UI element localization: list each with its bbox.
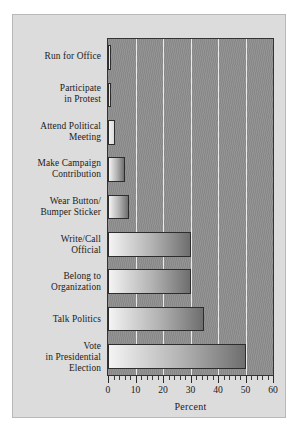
x-axis-minor-tick <box>114 376 115 380</box>
y-axis-label-cell: Talk Politics <box>13 301 105 339</box>
bar-series <box>108 39 273 375</box>
plot-area <box>107 38 274 376</box>
x-axis-minor-tick <box>257 376 258 380</box>
y-axis-label-cell: Make Campaign Contribution <box>13 151 105 189</box>
x-axis-minor-tick <box>158 376 159 380</box>
x-axis-minor-tick <box>147 376 148 380</box>
x-axis-tick-label: 60 <box>268 384 278 395</box>
y-axis-label-text: Belong to Organization <box>51 271 101 293</box>
y-axis-label-text: Attend Political Meeting <box>40 121 101 143</box>
x-axis-minor-tick <box>224 376 225 380</box>
bar <box>108 157 125 182</box>
x-axis-minor-tick <box>125 376 126 380</box>
x-axis-minor-tick <box>240 376 241 380</box>
x-axis-major-tick <box>108 376 109 383</box>
bar <box>108 232 191 257</box>
x-axis-minor-tick <box>174 376 175 380</box>
x-axis-minor-tick <box>130 376 131 380</box>
x-axis-major-tick <box>218 376 219 383</box>
x-axis-major-tick <box>191 376 192 383</box>
x-axis-tick-label: 10 <box>131 384 141 395</box>
x-axis-minor-tick <box>185 376 186 380</box>
x-axis-tick-label: 40 <box>213 384 223 395</box>
x-axis-minor-tick <box>213 376 214 380</box>
x-axis-minor-tick <box>180 376 181 380</box>
y-axis-label-cell: Belong to Organization <box>13 263 105 301</box>
bar-row <box>108 151 273 188</box>
x-axis-tick-label: 50 <box>241 384 251 395</box>
chart-figure: Run for Office Participate in Protest At… <box>12 14 286 418</box>
y-axis-label-cell: Attend Political Meeting <box>13 113 105 151</box>
x-axis-minor-tick <box>169 376 170 380</box>
y-axis-label-cell: Run for Office <box>13 38 105 76</box>
y-axis-label-text: Make Campaign Contribution <box>37 158 101 180</box>
x-axis-minor-tick <box>268 376 269 380</box>
x-axis-minor-tick <box>119 376 120 380</box>
bar <box>108 120 115 145</box>
y-axis-label-text: Wear Button/ Bumper Sticker <box>40 196 101 218</box>
bar <box>108 269 191 294</box>
y-axis-label-text: Run for Office <box>45 51 101 62</box>
bar-row <box>108 188 273 225</box>
bar <box>108 344 246 369</box>
y-axis-label-cell: Vote in Presidential Election <box>13 339 105 377</box>
x-axis-tick-label: 20 <box>158 384 168 395</box>
bar-row <box>108 300 273 337</box>
x-axis-minor-tick <box>202 376 203 380</box>
x-axis-minor-tick <box>262 376 263 380</box>
x-axis-minor-tick <box>251 376 252 380</box>
bar-row <box>108 338 273 375</box>
y-axis-label-text: Write/Call Official <box>61 234 101 256</box>
x-axis-tick-labels: 0102030405060 <box>107 384 274 398</box>
x-axis-minor-tick <box>207 376 208 380</box>
bar <box>108 45 111 70</box>
x-axis-minor-tick <box>152 376 153 380</box>
x-axis-major-tick <box>273 376 274 383</box>
x-axis-title: Percent <box>107 401 274 412</box>
bar-row <box>108 226 273 263</box>
y-axis-label-text: Talk Politics <box>53 314 101 325</box>
x-axis-major-tick <box>163 376 164 383</box>
y-axis-label-cell: Write/Call Official <box>13 226 105 264</box>
x-axis-major-tick <box>246 376 247 383</box>
bar <box>108 195 129 220</box>
bar <box>108 307 204 332</box>
x-axis-minor-tick <box>229 376 230 380</box>
x-axis-tick-label: 30 <box>186 384 196 395</box>
y-axis-category-labels: Run for Office Participate in Protest At… <box>13 38 105 376</box>
bar-row <box>108 76 273 113</box>
x-axis-minor-tick <box>196 376 197 380</box>
y-axis-label-text: Vote in Presidential Election <box>46 341 101 374</box>
bar-row <box>108 114 273 151</box>
bar-row <box>108 263 273 300</box>
x-axis-minor-tick <box>235 376 236 380</box>
y-axis-label-cell: Participate in Protest <box>13 76 105 114</box>
y-axis-label-cell: Wear Button/ Bumper Sticker <box>13 188 105 226</box>
bar-row <box>108 39 273 76</box>
y-axis-label-text: Participate in Protest <box>60 83 101 105</box>
bar <box>108 83 111 108</box>
x-axis-major-tick <box>136 376 137 383</box>
x-axis-minor-tick <box>141 376 142 380</box>
x-axis-tick-label: 0 <box>106 384 111 395</box>
